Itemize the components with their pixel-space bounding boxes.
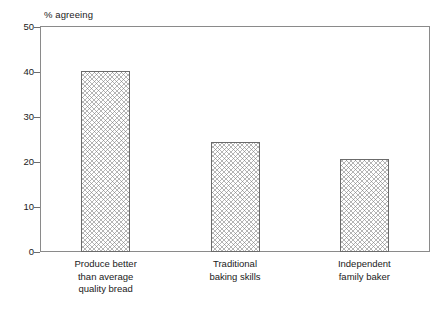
bar [340,159,389,252]
y-tick-mark [34,162,40,163]
y-tick-mark [34,72,40,73]
y-axis-title: % agreeing [44,9,93,20]
y-tick-mark [34,252,40,253]
x-axis-category-label: Produce better than average quality brea… [41,258,170,296]
y-tick-mark [34,207,40,208]
y-tick-mark [34,117,40,118]
bar-chart: % agreeing 01020304050 Produce better th… [0,0,446,310]
bar [81,71,130,252]
y-tick-label: 40 [8,67,34,77]
bar [211,142,260,252]
y-tick-label: 20 [8,157,34,167]
y-tick-label: 50 [8,22,34,32]
y-tick-label: 10 [8,202,34,212]
bars-layer [41,27,429,252]
x-axis-category-label: Independent family baker [300,258,429,283]
y-tick-label: 0 [8,247,34,257]
y-tick-label: 30 [8,112,34,122]
y-tick-mark [34,27,40,28]
x-axis-category-label: Traditional baking skills [170,258,299,283]
y-axis: 01020304050 [0,0,34,310]
